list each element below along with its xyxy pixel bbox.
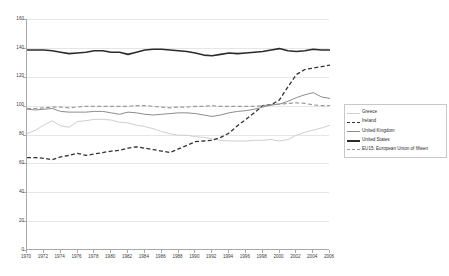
y-tick-label: 140: [4, 46, 24, 51]
x-tick: [245, 250, 246, 253]
x-tick: [110, 250, 111, 253]
legend-swatch-icon: [347, 137, 360, 144]
legend-swatch-icon: [347, 109, 360, 116]
x-tick: [144, 250, 145, 253]
legend-item-greece[interactable]: Greece: [347, 108, 444, 117]
x-tick-label: 2002: [290, 255, 300, 260]
x-tick-label: 2004: [307, 255, 317, 260]
x-tick: [312, 250, 313, 253]
y-tick-label: 60: [4, 161, 24, 166]
x-tick-label: 1998: [257, 255, 267, 260]
legend-item-ireland[interactable]: Ireland: [347, 117, 444, 126]
legend-item-label: EU15: European Union of fifteen: [362, 147, 428, 152]
legend-item-eu15[interactable]: EU15: European Union of fifteen: [347, 145, 444, 154]
x-tick-label: 1986: [156, 255, 166, 260]
x-tick: [43, 250, 44, 253]
x-tick-label: 1982: [122, 255, 132, 260]
x-tick-label: 1980: [105, 255, 115, 260]
y-tick-label: 160: [4, 17, 24, 22]
x-tick: [211, 250, 212, 253]
x-tick: [194, 250, 195, 253]
x-tick-label: 1976: [71, 255, 81, 260]
x-tick-label: 1970: [21, 255, 31, 260]
x-tick-label: 1972: [38, 255, 48, 260]
x-tick-label: 1990: [189, 255, 199, 260]
legend-swatch-icon: [347, 118, 360, 125]
x-tick-label: 1994: [223, 255, 233, 260]
chart-screenshot: 020406080100120140160 197019721974197619…: [0, 0, 449, 276]
series-line-eu15: [27, 103, 330, 109]
x-tick: [228, 250, 229, 253]
legend-item-label: Ireland: [362, 119, 376, 124]
x-axis: 1970197219741976197819801982198419861988…: [26, 250, 329, 276]
series-lines: [27, 19, 330, 250]
y-tick-label: 80: [4, 132, 24, 137]
series-line-greece: [27, 119, 330, 141]
plot-area: [26, 19, 329, 250]
x-tick: [161, 250, 162, 253]
y-axis: 020406080100120140160: [0, 0, 24, 276]
y-tick-label: 0: [4, 248, 24, 253]
x-tick-label: 2006: [324, 255, 334, 260]
x-tick-label: 1992: [206, 255, 216, 260]
legend-item-label: Greece: [362, 110, 377, 115]
y-tick-label: 40: [4, 190, 24, 195]
x-tick-label: 2000: [273, 255, 283, 260]
x-tick: [93, 250, 94, 253]
legend-swatch-icon: [347, 127, 360, 134]
x-tick-label: 1988: [172, 255, 182, 260]
x-tick: [26, 250, 27, 253]
x-tick-label: 1984: [139, 255, 149, 260]
x-tick: [77, 250, 78, 253]
x-tick-label: 1974: [55, 255, 65, 260]
y-tick-label: 20: [4, 219, 24, 224]
y-tick-label: 120: [4, 74, 24, 79]
x-tick: [127, 250, 128, 253]
legend-item-united-kingdom[interactable]: United Kingdom: [347, 126, 444, 135]
x-tick: [60, 250, 61, 253]
legend-swatch-icon: [347, 146, 360, 153]
x-tick: [279, 250, 280, 253]
x-tick: [262, 250, 263, 253]
chart-legend: GreeceIrelandUnited KingdomUnited States…: [344, 104, 447, 158]
y-tick-label: 100: [4, 103, 24, 108]
legend-item-label: United Kingdom: [362, 129, 395, 134]
x-tick-label: 1996: [240, 255, 250, 260]
x-tick-label: 1978: [88, 255, 98, 260]
series-line-united-states: [27, 49, 330, 56]
x-tick: [178, 250, 179, 253]
x-tick: [329, 250, 330, 253]
legend-item-label: United States: [362, 138, 390, 143]
x-tick: [295, 250, 296, 253]
series-line-united-kingdom: [27, 93, 330, 117]
legend-item-united-states[interactable]: United States: [347, 136, 444, 145]
